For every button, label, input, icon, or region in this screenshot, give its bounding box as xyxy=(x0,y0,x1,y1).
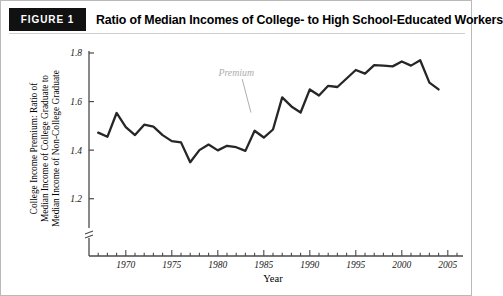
line-chart-svg: 1.21.41.61.81970197519801985199019952000… xyxy=(1,1,473,296)
chart-plot-area: 1.21.41.61.81970197519801985199019952000… xyxy=(1,1,473,296)
data-line-college-income-premium xyxy=(98,60,438,162)
y-axis-title-line: Median Income of College Graduate to xyxy=(40,75,50,222)
chart-axis-titles: YearCollege Income Premium: Ratio ofMedi… xyxy=(29,70,283,284)
y-axis-title-line: College Income Premium: Ratio of xyxy=(29,82,39,215)
x-axis-tick-label: 2005 xyxy=(438,260,457,270)
y-axis-title-line: Median Income of Non-College Graduate xyxy=(51,70,61,227)
axis-break-mark-lower xyxy=(85,235,93,238)
x-axis-tick-label: 1985 xyxy=(254,260,273,270)
chart-annotations: Premium xyxy=(217,67,254,112)
x-axis-tick-label: 1995 xyxy=(346,260,365,270)
y-axis-tick-label: 1.4 xyxy=(70,146,82,156)
y-axis-tick-label: 1.8 xyxy=(70,48,82,58)
x-axis-title: Year xyxy=(263,273,283,284)
y-axis-tick-label: 1.2 xyxy=(70,194,82,204)
chart-tick-labels: 1.21.41.61.81970197519801985199019952000… xyxy=(70,48,457,270)
x-axis-tick-label: 1970 xyxy=(116,260,135,270)
axis-break-mark-upper xyxy=(85,231,93,234)
x-axis-tick-label: 1990 xyxy=(300,260,319,270)
x-axis-tick-label: 2000 xyxy=(392,260,411,270)
annotation-leader-line xyxy=(242,79,251,112)
x-axis-tick-label: 1980 xyxy=(208,260,227,270)
chart-axes xyxy=(85,51,463,256)
chart-data-series xyxy=(98,60,438,162)
annotation-label-premium: Premium xyxy=(217,67,254,78)
x-axis-tick-label: 1975 xyxy=(162,260,181,270)
y-axis-tick-label: 1.6 xyxy=(70,97,82,107)
